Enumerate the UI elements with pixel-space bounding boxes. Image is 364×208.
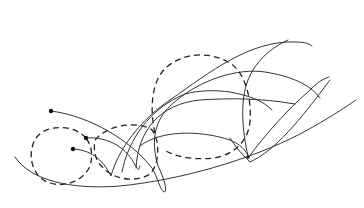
trajectory-figure <box>0 0 364 208</box>
trajectories <box>15 40 356 192</box>
trajectory-d <box>140 133 249 158</box>
junction-point <box>246 155 249 158</box>
dashed-envelopes <box>31 55 250 185</box>
start-point-3 <box>71 147 75 151</box>
trajectory-i <box>248 77 329 158</box>
trajectory-c <box>73 42 312 176</box>
dashed-circle-small <box>31 128 91 185</box>
start-point-2 <box>84 136 88 140</box>
start-point-1 <box>49 109 53 113</box>
